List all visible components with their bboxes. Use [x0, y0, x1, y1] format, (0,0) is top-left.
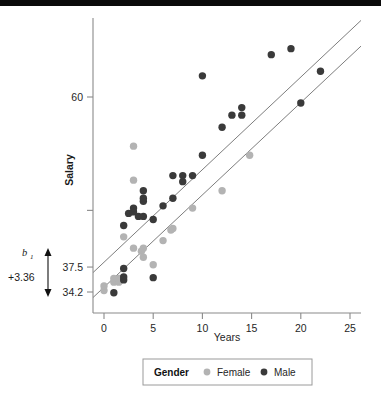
slope-annotation: b 1 +3.36: [8, 247, 52, 297]
gap-arrow-head-down: [45, 289, 52, 297]
legend-label-female: Female: [217, 367, 251, 378]
male-data-point: [110, 289, 117, 296]
x-tick-label: 25: [344, 322, 356, 334]
x-axis: 0510152025 Years: [93, 313, 361, 343]
male-data-point: [268, 51, 275, 58]
male-data-point: [169, 172, 176, 179]
gap-arrow-head-up: [45, 248, 52, 256]
fit-lines-group: [89, 17, 365, 301]
male-data-point: [169, 195, 176, 202]
plot-area: [89, 17, 365, 301]
female-data-point: [159, 237, 166, 244]
legend-swatch-male: [261, 369, 268, 376]
male-data-point: [238, 111, 245, 118]
scatter-plot: 34.237.560 Salary 0510152025 Years b 1 +…: [0, 0, 381, 397]
male-data-point: [297, 99, 304, 106]
male-data-point: [120, 222, 127, 229]
female-data-point: [150, 261, 157, 268]
male-data-point: [287, 45, 294, 52]
slope-value-label: +3.36: [8, 271, 35, 283]
chart-page: 34.237.560 Salary 0510152025 Years b 1 +…: [0, 0, 381, 397]
male-data-point: [130, 204, 137, 211]
male-data-point: [120, 273, 127, 280]
male-data-point: [218, 124, 225, 131]
x-tick-label: 20: [295, 322, 307, 334]
male-data-point: [159, 202, 166, 209]
slope-coefficient-label: b: [22, 247, 27, 258]
female-data-point: [130, 142, 137, 149]
male-data-point: [140, 187, 147, 194]
male-data-point: [317, 68, 324, 75]
y-axis-ticks: 34.237.560: [63, 91, 93, 298]
female-data-point: [140, 254, 147, 261]
female-data-point: [246, 151, 253, 158]
female-data-point: [169, 225, 176, 232]
x-tick-label: 5: [150, 322, 156, 334]
male-data-point: [228, 111, 235, 118]
slope-coefficient-subscript: 1: [30, 253, 34, 261]
male-data-point: [140, 195, 147, 202]
female-data-point: [120, 233, 127, 240]
y-axis: 34.237.560 Salary: [63, 18, 93, 313]
x-axis-title: Years: [214, 331, 240, 343]
male-data-point: [199, 151, 206, 158]
female-data-point: [130, 244, 137, 251]
y-tick-label: 34.2: [63, 286, 84, 298]
male-data-point: [189, 172, 196, 179]
male-data-point: [199, 72, 206, 79]
female-fit-line: [89, 43, 365, 301]
legend-label-male: Male: [274, 367, 296, 378]
male-data-point: [140, 213, 147, 220]
x-tick-label: 10: [197, 322, 209, 334]
male-data-point: [238, 104, 245, 111]
female-data-point: [218, 187, 225, 194]
x-tick-label: 15: [246, 322, 258, 334]
female-data-point: [130, 176, 137, 183]
legend: Gender Female Male: [143, 359, 312, 385]
x-tick-label: 0: [101, 322, 107, 334]
male-data-point: [150, 274, 157, 281]
y-tick-label: 60: [71, 91, 83, 103]
female-data-point: [100, 282, 107, 289]
y-tick-label: 37.5: [63, 261, 84, 273]
male-data-point: [150, 216, 157, 223]
male-data-point: [179, 172, 186, 179]
female-data-point: [140, 244, 147, 251]
male-data-point: [120, 265, 127, 272]
legend-title: Gender: [154, 367, 189, 378]
y-axis-title: Salary: [63, 154, 75, 186]
female-data-point: [189, 204, 196, 211]
legend-swatch-female: [204, 369, 211, 376]
